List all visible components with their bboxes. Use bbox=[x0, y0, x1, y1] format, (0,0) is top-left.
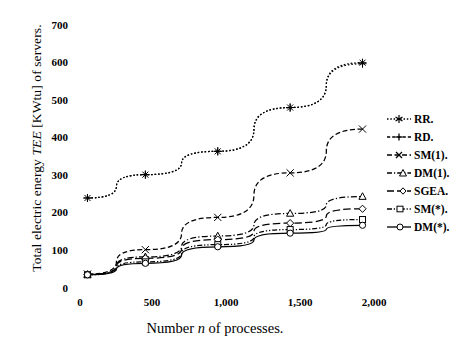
series-line-1 bbox=[87, 64, 362, 198]
legend-item-dm1: DM(1). bbox=[386, 164, 472, 182]
series-marker-4 bbox=[359, 205, 366, 212]
legend-swatch-icon bbox=[386, 183, 412, 199]
legend-swatch-icon bbox=[386, 201, 412, 217]
legend-key-sm1 bbox=[386, 147, 412, 163]
series-marker-6 bbox=[142, 260, 148, 266]
legend-item-rd: RD. bbox=[386, 128, 472, 146]
series-marker-6 bbox=[84, 272, 90, 278]
legend-swatch-icon bbox=[386, 219, 412, 235]
legend-key-dmstar bbox=[386, 219, 412, 235]
series-marker-6 bbox=[359, 222, 365, 228]
series-line-6 bbox=[87, 225, 362, 275]
series-line-0 bbox=[87, 63, 362, 198]
legend-swatch-icon bbox=[386, 147, 412, 163]
legend-item-dmstar: DM(*). bbox=[386, 218, 472, 236]
legend-label-sm1: SM(1). bbox=[412, 149, 448, 161]
legend-key-rd bbox=[386, 129, 412, 145]
legend-swatch-icon bbox=[386, 111, 412, 127]
legend-item-sgea: SGEA. bbox=[386, 182, 472, 200]
legend-label-rd: RD. bbox=[412, 131, 434, 143]
series-marker-5 bbox=[360, 217, 366, 223]
legend-label-rr: RR. bbox=[412, 113, 434, 125]
legend-label-dm1: DM(1). bbox=[412, 167, 449, 179]
series-marker-1 bbox=[359, 60, 367, 68]
chart-legend: RR. RD. SM(1). DM(1). SGEA. SM(*). DM(*)… bbox=[386, 110, 472, 236]
series-marker-4 bbox=[287, 220, 294, 227]
legend-key-sgea bbox=[386, 183, 412, 199]
legend-label-dmstar: DM(*). bbox=[412, 221, 449, 233]
series-line-3 bbox=[87, 197, 362, 275]
legend-swatch-icon bbox=[386, 165, 412, 181]
legend-item-smstar: SM(*). bbox=[386, 200, 472, 218]
series-line-2 bbox=[87, 129, 362, 274]
series-marker-6 bbox=[287, 230, 293, 236]
series-marker-6 bbox=[215, 244, 221, 250]
legend-label-sgea: SGEA. bbox=[412, 185, 448, 197]
legend-key-dm1 bbox=[386, 165, 412, 181]
legend-item-rr: RR. bbox=[386, 110, 472, 128]
legend-swatch-icon bbox=[386, 129, 412, 145]
chart-figure: Total electric energy TEE [KWtu] of serv… bbox=[0, 0, 473, 354]
legend-key-smstar bbox=[386, 201, 412, 217]
legend-item-sm1: SM(1). bbox=[386, 146, 472, 164]
legend-key-rr bbox=[386, 111, 412, 127]
legend-label-smstar: SM(*). bbox=[412, 203, 448, 215]
